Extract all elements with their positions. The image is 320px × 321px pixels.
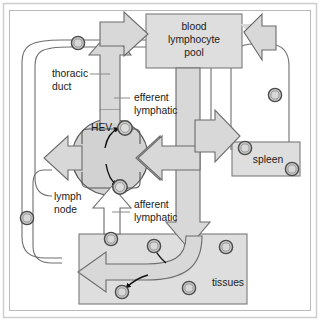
lymphocyte-cell — [104, 232, 117, 245]
blood-pool-label-line1: blood — [181, 21, 206, 32]
tissues-label: tissues — [212, 277, 244, 288]
thoracic-duct-label-line2: duct — [52, 81, 72, 92]
lymphocyte-cell — [147, 239, 160, 252]
lymphocyte-cell — [115, 285, 128, 298]
afferent-label-line1: afferent — [134, 199, 169, 210]
lymphocyte-cell — [268, 88, 281, 101]
lymphocyte-cell — [20, 211, 33, 224]
lymphocyte-cell-hev-lower — [113, 180, 127, 194]
thoracic-duct-label-line1: thoracic — [52, 68, 88, 79]
lymphocyte-cell — [182, 281, 195, 294]
afferent-label-line2: lymphatic — [134, 212, 178, 223]
lymphocyte-recirculation-diagram: blood lymphocyte pool spleen tissues — [0, 0, 320, 321]
lymph-node-label-line1: lymph — [54, 191, 82, 202]
blood-pool-label-line3: pool — [184, 47, 203, 58]
spleen-label: spleen — [253, 154, 284, 165]
figure-frame: blood lymphocyte pool spleen tissues — [0, 0, 320, 321]
lymphocyte-cell-hev-upper — [118, 121, 132, 135]
hev-label: HEV — [91, 122, 112, 133]
lymphocyte-cell — [71, 36, 84, 49]
lymphocyte-cell — [238, 141, 251, 154]
lymphocyte-cell — [219, 240, 232, 253]
efferent-label-line1: efferent — [134, 92, 169, 103]
blood-pool-label-line2: lymphocyte — [168, 34, 220, 45]
lymphocyte-cell — [285, 162, 298, 175]
lymph-node-label-line2: node — [54, 204, 77, 215]
efferent-label-line2: lymphatic — [134, 105, 178, 116]
